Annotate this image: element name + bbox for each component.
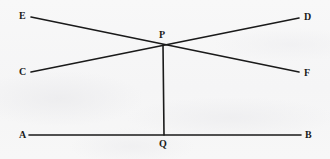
vertex-label-E: E bbox=[19, 11, 26, 21]
vertex-label-Q: Q bbox=[159, 139, 167, 149]
geometry-figure: E C D F A B P Q bbox=[0, 0, 330, 159]
vertex-label-B: B bbox=[305, 130, 312, 140]
segment-PQ bbox=[163, 45, 164, 135]
vertex-label-A: A bbox=[19, 130, 26, 140]
vertex-label-C: C bbox=[19, 67, 26, 77]
vertex-label-D: D bbox=[304, 12, 311, 22]
vertex-label-F: F bbox=[304, 68, 310, 78]
geometry-canvas bbox=[0, 0, 330, 159]
vertex-label-P: P bbox=[159, 30, 165, 40]
